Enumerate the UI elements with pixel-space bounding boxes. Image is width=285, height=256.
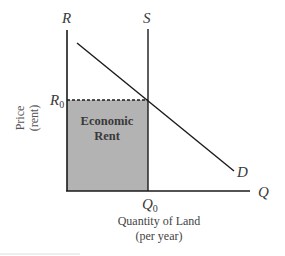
economic-rent-label-line1: Economic bbox=[81, 114, 134, 128]
economic-rent-label-line2: Rent bbox=[94, 129, 121, 143]
price-tick-r0: R0 bbox=[49, 92, 64, 110]
economic-rent-diagram: R S D Q R0 Q0 Economic Rent Price (rent)… bbox=[0, 0, 285, 256]
quantity-tick-q0: Q0 bbox=[142, 196, 158, 214]
y-axis-letter: R bbox=[61, 10, 71, 26]
x-axis-label-line2: (per year) bbox=[136, 229, 183, 243]
y-axis-label-line2: (rent) bbox=[27, 105, 41, 132]
x-axis-label-line1: Quantity of Land bbox=[118, 214, 201, 228]
x-axis-letter: Q bbox=[258, 184, 269, 200]
y-axis-label-line1: Price bbox=[13, 106, 27, 131]
demand-label: D bbox=[236, 164, 248, 180]
supply-label: S bbox=[143, 10, 151, 26]
